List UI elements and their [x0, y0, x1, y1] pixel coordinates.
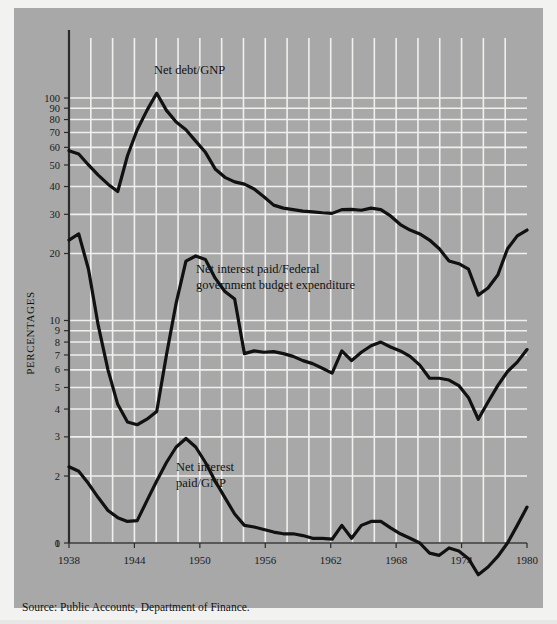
- y-tick-label: 3: [55, 431, 60, 442]
- y-tick-label: 4: [55, 404, 61, 415]
- annotation-net-debt-gnp: Net debt/GNP: [154, 63, 225, 77]
- source-note: Source: Public Accounts, Department of F…: [22, 601, 250, 613]
- x-tick-label: 1938: [58, 554, 81, 566]
- chart-figure: 1009080706050403020109876543210 19381944…: [14, 8, 543, 608]
- y-tick-label: 8: [55, 337, 60, 348]
- y-tick-label: 6: [55, 364, 60, 375]
- annotation-net-interest-gnp-line1: Net interest: [176, 460, 234, 474]
- y-axis-title: PERCENTAGES: [24, 291, 36, 374]
- y-tick-label: 0: [55, 538, 60, 549]
- y-tick-label: 9: [55, 325, 60, 336]
- x-tick-label: 1956: [254, 554, 277, 566]
- page-bottom-rule: [0, 620, 557, 624]
- y-tick-label: 80: [50, 114, 61, 125]
- x-tick-label: 1950: [189, 554, 212, 566]
- y-tick-label: 2: [55, 471, 60, 482]
- y-tick-label: 20: [50, 248, 61, 259]
- annotation-net-interest-gnp-line2: paid/GNP: [176, 476, 226, 490]
- y-tick-label: 90: [50, 103, 61, 114]
- y-tick-label: 30: [50, 209, 61, 220]
- y-tick-label: 40: [50, 181, 61, 192]
- annotation-net-interest-federal-line1: Net interest paid/Federal: [196, 262, 320, 276]
- x-tick-label: 1944: [123, 554, 146, 566]
- y-tick-labels: 1009080706050403020109876543210: [44, 93, 61, 549]
- x-tick-label: 1962: [320, 554, 342, 566]
- chart-plot-area: 1009080706050403020109876543210 19381944…: [14, 8, 543, 608]
- y-tick-label: 50: [50, 160, 61, 171]
- y-tick-label: 70: [50, 127, 61, 138]
- y-tick-label: 7: [55, 350, 60, 361]
- y-tick-label: 5: [55, 382, 60, 393]
- annotation-net-interest-federal-line2: government budget expenditure: [196, 278, 355, 292]
- x-tick-label: 1980: [516, 554, 539, 566]
- y-tick-label: 60: [50, 142, 61, 153]
- x-tick-labels: 19381944195019561962196819741980: [58, 543, 539, 566]
- x-tick-label: 1968: [385, 554, 408, 566]
- y-gridlines: [64, 98, 527, 543]
